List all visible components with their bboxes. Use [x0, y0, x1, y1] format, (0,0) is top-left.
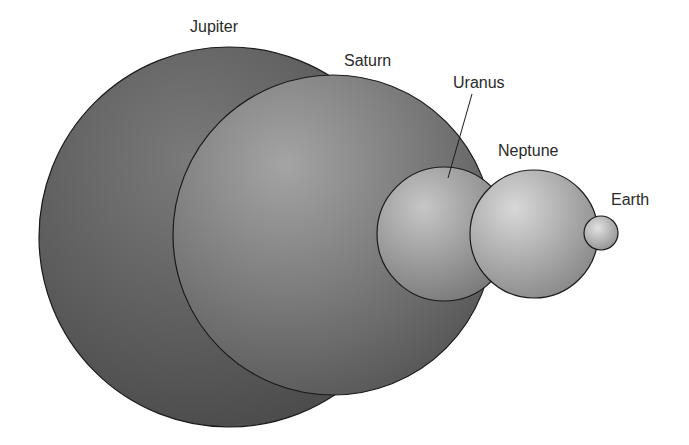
label-saturn: Saturn — [344, 52, 391, 69]
planet-earth — [584, 216, 618, 250]
label-jupiter: Jupiter — [190, 18, 239, 35]
label-uranus: Uranus — [453, 74, 505, 91]
planet-neptune — [470, 170, 598, 298]
label-earth: Earth — [611, 191, 649, 208]
label-neptune: Neptune — [498, 142, 559, 159]
planet-size-diagram: Jupiter Saturn Uranus Neptune Earth — [0, 0, 689, 445]
